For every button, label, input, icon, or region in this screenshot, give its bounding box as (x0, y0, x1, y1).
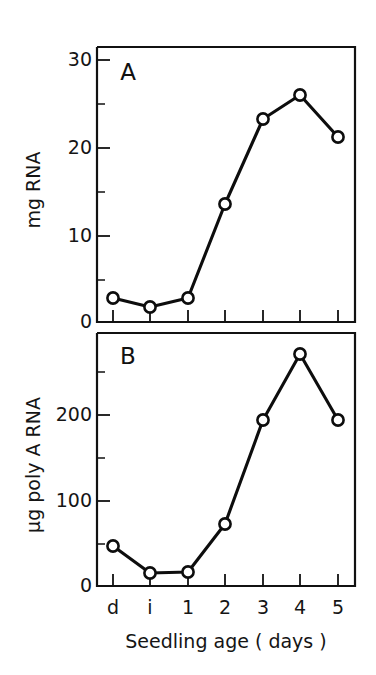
panel-a-point-3 (257, 113, 268, 124)
two-panel-line-chart: 30 20 10 0 A mg RNA (0, 0, 376, 675)
panel-a-frame (97, 47, 355, 322)
panel-b-data-line (113, 354, 338, 573)
panel-b: 200 100 0 d i 1 2 3 4 5 B (22, 333, 355, 652)
panel-b-xtick-3: 3 (257, 596, 269, 618)
panel-a-point-2 (219, 198, 230, 209)
panel-b-point-d (107, 540, 118, 551)
panel-a: 30 20 10 0 A mg RNA (22, 47, 355, 332)
panel-a-point-d (107, 292, 118, 303)
panel-a-point-4 (294, 89, 305, 100)
panel-b-point-5 (332, 414, 343, 425)
panel-a-data-markers (107, 89, 343, 312)
panel-a-ytick-10: 10 (68, 224, 92, 246)
panel-b-xtick-1: 1 (182, 596, 194, 618)
panel-a-point-5 (332, 131, 343, 142)
figure-container: 30 20 10 0 A mg RNA (0, 0, 376, 675)
panel-a-ylabel: mg RNA (22, 151, 44, 228)
panel-a-y-ticks (97, 60, 110, 236)
panel-a-letter: A (120, 59, 136, 85)
panel-a-ytick-20: 20 (68, 136, 92, 158)
panel-b-ytick-200: 200 (56, 403, 92, 425)
panel-b-ylabel: µg poly A RNA (22, 397, 44, 533)
panel-a-ytick-30: 30 (68, 48, 92, 70)
panel-b-xtick-2: 2 (219, 596, 231, 618)
panel-b-data-markers (107, 348, 343, 578)
panel-b-point-3 (257, 414, 268, 425)
panel-b-point-1 (182, 566, 193, 577)
panel-a-point-1 (182, 292, 193, 303)
panel-b-ytick-100: 100 (56, 489, 92, 511)
panel-b-point-2 (219, 518, 230, 529)
panel-b-xtick-i: i (147, 596, 152, 618)
panel-a-point-i (144, 301, 155, 312)
panel-b-letter: B (120, 343, 136, 369)
panel-b-point-4 (294, 348, 305, 359)
panel-b-xtick-4: 4 (294, 596, 306, 618)
panel-b-xtick-5: 5 (332, 596, 344, 618)
panel-b-xtick-d: d (107, 596, 119, 618)
panel-a-y-minor-ticks (97, 104, 105, 280)
panel-a-ytick-0: 0 (80, 310, 92, 332)
panel-b-y-minor-ticks (97, 372, 105, 544)
panel-b-point-i (144, 567, 155, 578)
x-axis-label: Seedling age ( days ) (125, 630, 326, 652)
panel-b-frame (97, 333, 355, 586)
panel-b-ytick-0: 0 (80, 574, 92, 596)
